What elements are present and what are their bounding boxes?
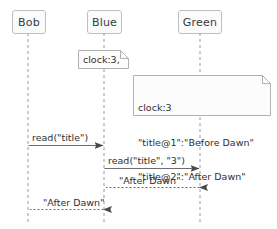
note-clock-blue-line-1: clock:3, [83,54,120,66]
participant-label-green: Green [183,17,217,28]
participant-box-green[interactable]: Green [178,10,222,34]
sequence-diagram-canvas: Bob Blue Green clock:3, clock:3 "title@1… [0,0,277,229]
participant-box-blue[interactable]: Blue [87,10,122,34]
note-clock-green: clock:3 "title@1":"Before Dawn" "title@2… [133,76,270,115]
message-label-1: read("title") [32,132,88,143]
participant-label-blue: Blue [92,17,117,28]
message-label-3: "After Dawn" [119,175,181,186]
message-label-4: "After Dawn" [43,197,105,208]
participant-label-bob: Bob [18,17,40,28]
note-clock-green-line-1: clock:3 [138,102,265,114]
participant-box-bob[interactable]: Bob [12,10,46,34]
message-label-2: read("title", "3") [108,155,185,166]
note-clock-blue: clock:3, [78,51,128,69]
note-clock-green-line-2: "title@1":"Before Dawn" [138,137,265,149]
